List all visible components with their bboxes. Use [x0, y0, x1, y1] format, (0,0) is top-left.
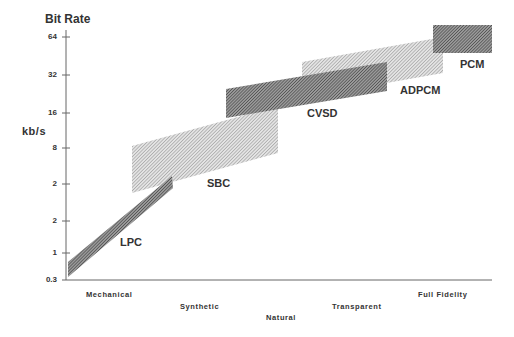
y-tick-16: 16	[17, 108, 57, 117]
band-label-cvsd: CVSD	[307, 107, 338, 119]
x-tick-transparent: Transparent	[332, 302, 382, 311]
x-tick-mechanical: Mechanical	[86, 290, 132, 299]
x-tick-synthetic: Synthetic	[180, 302, 219, 311]
y-tick-8: 8	[17, 143, 57, 152]
y-axis-label: kb/s	[22, 125, 46, 137]
y-tick-64: 64	[17, 32, 57, 41]
band-sbc	[132, 106, 278, 193]
x-tick-full-fidelity: Full Fidelity	[418, 290, 467, 299]
chart-canvas	[0, 0, 514, 337]
band-label-adpcm: ADPCM	[400, 84, 440, 96]
x-tick-natural: Natural	[266, 313, 296, 322]
y-tick-2a: 2	[17, 179, 57, 188]
band-lpc	[68, 176, 173, 277]
y-tick-2b: 2	[17, 216, 57, 225]
band-label-pcm: PCM	[460, 58, 484, 70]
y-tick-0-3: 0.3	[17, 275, 57, 284]
band-label-sbc: SBC	[207, 177, 230, 189]
band-pcm	[433, 25, 492, 53]
band-label-lpc: LPC	[120, 236, 142, 248]
chart-title: Bit Rate	[45, 12, 90, 26]
y-tick-1: 1	[17, 248, 57, 257]
y-tick-32: 32	[17, 70, 57, 79]
